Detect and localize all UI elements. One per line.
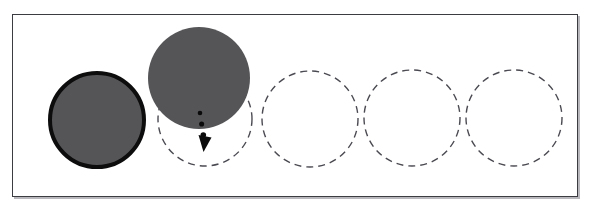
balls-layer	[50, 27, 250, 167]
arrow-dot	[199, 121, 204, 126]
diagram-stage	[0, 0, 590, 215]
arrow-head-icon	[199, 135, 212, 152]
arrow-dot	[198, 111, 203, 116]
scene-canvas	[0, 0, 590, 215]
slot-outline-4[interactable]	[364, 70, 460, 166]
slot-outline-3[interactable]	[262, 71, 358, 167]
placed-ball[interactable]	[50, 73, 144, 167]
slot-outline-5[interactable]	[466, 70, 562, 166]
